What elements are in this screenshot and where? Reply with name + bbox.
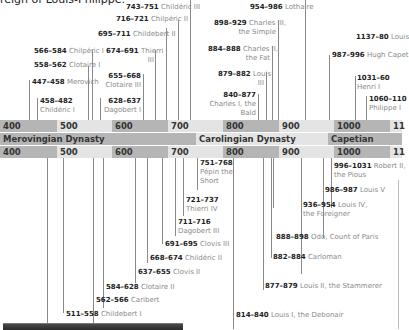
dynasty-merovingian: Merovingian Dynasty bbox=[0, 133, 196, 145]
connector-line bbox=[278, 20, 279, 120]
king-label: 691–695 Clovis III bbox=[165, 240, 229, 249]
connector-line bbox=[197, 158, 198, 190]
century-800: 800 bbox=[223, 120, 279, 132]
king-label: 898–929 Charles III,the Simple bbox=[214, 19, 276, 37]
connector-line bbox=[355, 76, 356, 120]
century-800: 800 bbox=[223, 146, 279, 158]
king-label: 743–751 Childéric III bbox=[126, 3, 200, 12]
connector-line bbox=[266, 72, 267, 120]
king-label: 1137–80 Louis bbox=[356, 33, 409, 42]
century-400: 400 bbox=[0, 146, 57, 158]
connector-line bbox=[63, 158, 64, 313]
century-500: 500 bbox=[57, 146, 112, 158]
right-border-line bbox=[398, 180, 399, 329]
connector-line bbox=[190, 0, 191, 120]
connector-line bbox=[166, 28, 167, 120]
king-label: 447–458 Merovich bbox=[32, 78, 99, 87]
century-1000: 1000 bbox=[334, 120, 390, 132]
connector-line bbox=[162, 158, 163, 244]
king-label: 637–655 Clovis II bbox=[138, 268, 200, 277]
king-label: 458–482Childéric I bbox=[40, 97, 75, 115]
connector-line bbox=[47, 158, 48, 323]
connector-line bbox=[37, 98, 38, 120]
century-900: 900 bbox=[279, 120, 334, 132]
century-scale-top: 400 500 600 700 800 900 1000 11 bbox=[0, 120, 402, 132]
king-label: 879–882 LouisIII bbox=[218, 70, 264, 88]
connector-line bbox=[323, 158, 324, 238]
connector-line bbox=[233, 158, 234, 329]
king-label: 562–566 Caribert bbox=[96, 296, 159, 305]
king-label: 655–668Clotaire III bbox=[100, 72, 141, 90]
king-label: 721–737Thierri IV bbox=[186, 196, 219, 214]
century-1000: 1000 bbox=[334, 146, 390, 158]
king-label: 1060–110Philippe I bbox=[369, 95, 407, 113]
king-label: 877–879 Louis II, the Stammerer bbox=[265, 282, 382, 291]
connector-line bbox=[93, 158, 94, 328]
connector-line bbox=[155, 50, 156, 120]
century-1100: 11 bbox=[390, 146, 402, 158]
king-label: 716–721 Chilpéric II bbox=[116, 15, 188, 24]
connector-line bbox=[29, 80, 30, 120]
connector-line bbox=[88, 66, 89, 120]
king-label: 711–716Dagobert III bbox=[178, 218, 219, 236]
connector-line bbox=[135, 158, 136, 283]
king-label: 814–840 Louis I, the Debonair bbox=[236, 311, 343, 320]
king-label: 882–884 Carloman bbox=[273, 253, 342, 262]
century-600: 600 bbox=[112, 120, 168, 132]
king-label: 888–898 Odo, Count of Paris bbox=[276, 233, 378, 242]
king-label: 987–996 Hugh Capet bbox=[332, 51, 408, 60]
king-label: 558–562 Clotaire I bbox=[34, 61, 100, 70]
connector-line bbox=[329, 55, 330, 120]
king-label: 674–691 ThierriIII bbox=[106, 47, 154, 65]
connector-line bbox=[263, 158, 264, 290]
connector-line bbox=[143, 74, 144, 120]
connector-line bbox=[273, 158, 274, 208]
connector-line bbox=[175, 158, 176, 236]
connector-line bbox=[183, 158, 184, 216]
connector-line bbox=[272, 46, 273, 120]
connector-line bbox=[103, 158, 104, 308]
king-label: 986–987 Louis V bbox=[325, 186, 385, 195]
photo-strip bbox=[3, 323, 183, 330]
connector-line bbox=[305, 0, 306, 120]
connector-line bbox=[147, 158, 148, 263]
dynasty-band: Merovingian Dynasty Carolingian Dynasty … bbox=[0, 133, 402, 145]
connector-line bbox=[271, 158, 272, 258]
king-label: 884–888 Charles II,the Fat bbox=[208, 45, 270, 63]
king-label: 566–584 Chilpéric I bbox=[34, 47, 104, 56]
king-label: 668–674 Childéric II bbox=[150, 254, 222, 263]
century-1100: 11 bbox=[390, 120, 402, 132]
dynasty-carolingian: Carolingian Dynasty bbox=[196, 133, 328, 145]
king-label: 840–877Charles I, theBald bbox=[200, 91, 256, 118]
century-700: 700 bbox=[168, 120, 223, 132]
connector-line bbox=[178, 20, 179, 120]
king-label: 511–558 Childebert I bbox=[66, 310, 142, 319]
king-label: 628–637Dagobert I bbox=[96, 97, 141, 115]
king-label: 996–1031 Robert II,the Pious bbox=[334, 162, 406, 180]
century-700: 700 bbox=[168, 146, 223, 158]
connector-line bbox=[258, 94, 259, 120]
century-400: 400 bbox=[0, 120, 57, 132]
king-label: 695–711 Childebert II bbox=[98, 30, 176, 39]
century-600: 600 bbox=[112, 146, 168, 158]
king-label: 954–986 Lothaire bbox=[250, 3, 313, 12]
king-label: 1031–60Henri I bbox=[357, 74, 390, 92]
dynasty-capetian: Capetian Dynasty bbox=[328, 133, 402, 145]
century-500: 500 bbox=[57, 120, 112, 132]
century-900: 900 bbox=[279, 146, 334, 158]
king-label: 936–954 Louis IV,the Foreigner bbox=[303, 201, 367, 219]
intro-text: reign of Louis-Philippe. bbox=[0, 0, 125, 6]
century-scale-bottom: 400 500 600 700 800 900 1000 11 bbox=[0, 146, 402, 158]
connector-line bbox=[366, 96, 367, 120]
king-label: 584–628 Clotaire II bbox=[106, 283, 174, 292]
king-label: 751–768Pépin theShort bbox=[200, 159, 233, 186]
